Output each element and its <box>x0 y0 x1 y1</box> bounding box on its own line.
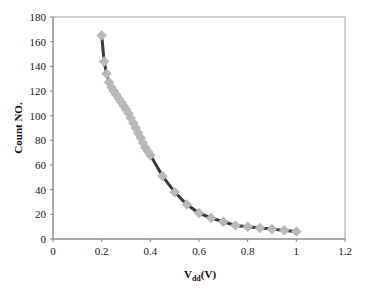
data-point <box>206 213 216 223</box>
y-tick-label: 80 <box>35 134 47 146</box>
y-tick-label: 60 <box>35 159 47 171</box>
x-tick-label: 1.2 <box>338 245 352 257</box>
x-tick-label: 0.4 <box>143 245 157 257</box>
chart: 00.20.40.60.811.202040608010012014016018… <box>0 0 370 291</box>
y-tick-label: 120 <box>30 85 47 97</box>
x-axis-title: Vdd(V) <box>184 268 216 283</box>
y-tick-label: 0 <box>41 233 47 245</box>
x-tick-label: 1 <box>294 245 300 257</box>
y-axis-title: Count NO. <box>12 102 24 154</box>
data-point <box>279 225 289 235</box>
series-line <box>102 36 297 232</box>
y-tick-label: 20 <box>35 208 47 220</box>
y-tick-label: 180 <box>30 11 47 23</box>
data-point <box>218 217 228 227</box>
y-tick-label: 160 <box>30 36 47 48</box>
data-point <box>255 223 265 233</box>
y-tick-label: 140 <box>30 60 47 72</box>
data-point <box>243 222 253 232</box>
data-point <box>231 220 241 230</box>
data-point <box>99 56 109 66</box>
x-tick-label: 0.8 <box>241 245 255 257</box>
x-tick-label: 0.2 <box>95 245 109 257</box>
x-axis-title-main: V <box>184 268 192 280</box>
x-tick-label: 0 <box>50 245 56 257</box>
plot-frame <box>53 17 345 239</box>
y-tick-label: 40 <box>35 184 47 196</box>
x-tick-label: 0.6 <box>192 245 206 257</box>
data-point <box>102 69 112 79</box>
data-point <box>97 31 107 41</box>
data-point <box>291 227 301 237</box>
y-tick-label: 100 <box>30 110 47 122</box>
data-point <box>267 224 277 234</box>
x-axis-title-unit: (V) <box>201 268 217 281</box>
